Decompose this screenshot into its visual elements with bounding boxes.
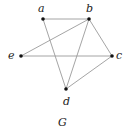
edge-c-d (66, 56, 112, 89)
node-label-d: d (63, 96, 70, 107)
node-c (110, 54, 114, 58)
node-label-b: b (86, 3, 93, 14)
node-label-a: a (38, 3, 45, 14)
node-a (41, 17, 45, 21)
node-b (87, 17, 91, 21)
node-d (64, 87, 68, 91)
edge-b-c (89, 19, 112, 56)
node-label-e: e (8, 50, 15, 61)
node-label-c: c (116, 50, 122, 61)
edge-a-d (43, 19, 66, 89)
graph-canvas (0, 0, 123, 126)
node-e (19, 54, 23, 58)
graph-caption: G (58, 117, 67, 126)
